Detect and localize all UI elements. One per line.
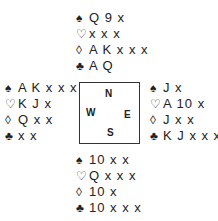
compass-east: E	[124, 109, 131, 120]
club-icon: ♣	[150, 128, 163, 144]
north-hearts: ♡x x x	[76, 26, 149, 42]
heart-icon: ♡	[76, 26, 89, 42]
south-hand: ♠10 x x ♡Q x x x ◊10 x ♣10 x x x	[76, 152, 142, 216]
north-diamonds: ◊A K x x x	[76, 42, 149, 58]
compass-south: S	[107, 127, 114, 138]
spade-icon: ♠	[5, 80, 18, 96]
club-icon: ♣	[76, 200, 89, 216]
east-hand: ♠J x ♡A 10 x ◊J x x ♣K J x x x	[150, 80, 218, 144]
east-hearts: ♡A 10 x	[150, 96, 218, 112]
compass-west: W	[86, 107, 95, 118]
diamond-icon: ◊	[76, 184, 89, 200]
spade-icon: ♠	[150, 80, 163, 96]
north-spades: ♠Q 9 x	[76, 10, 149, 26]
heart-icon: ♡	[5, 96, 18, 112]
north-hand: ♠Q 9 x ♡x x x ◊A K x x x ♣A Q	[76, 10, 149, 74]
south-diamonds: ◊10 x	[76, 184, 142, 200]
south-spades: ♠10 x x	[76, 152, 142, 168]
west-clubs: ♣x x	[5, 128, 78, 144]
north-clubs: ♣A Q	[76, 58, 149, 74]
club-icon: ♣	[5, 128, 18, 144]
spade-icon: ♠	[76, 10, 89, 26]
compass-north: N	[105, 88, 112, 99]
heart-icon: ♡	[76, 168, 89, 184]
east-clubs: ♣K J x x x	[150, 128, 218, 144]
compass-box: N W E S	[79, 82, 140, 144]
west-diamonds: ◊Q x x	[5, 112, 78, 128]
club-icon: ♣	[76, 58, 89, 74]
west-spades: ♠A K x x x	[5, 80, 78, 96]
east-diamonds: ◊J x x	[150, 112, 218, 128]
diamond-icon: ◊	[5, 112, 18, 128]
south-hearts: ♡Q x x x	[76, 168, 142, 184]
diamond-icon: ◊	[76, 42, 89, 58]
west-hand: ♠A K x x x ♡K J x ◊Q x x ♣x x	[5, 80, 78, 144]
south-clubs: ♣10 x x x	[76, 200, 142, 216]
heart-icon: ♡	[150, 96, 163, 112]
east-spades: ♠J x	[150, 80, 218, 96]
diamond-icon: ◊	[150, 112, 163, 128]
west-hearts: ♡K J x	[5, 96, 78, 112]
spade-icon: ♠	[76, 152, 89, 168]
